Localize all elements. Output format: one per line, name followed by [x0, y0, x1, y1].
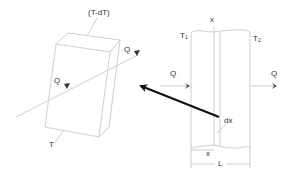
- bottom-label-leader: [55, 130, 64, 143]
- right-temp-label: T2: [253, 35, 261, 43]
- diagram-graphics: [0, 0, 294, 173]
- box-bottom-temp-label: T: [49, 141, 54, 149]
- box-flow-line: [16, 55, 138, 117]
- right-temp-subscript: 2: [258, 37, 261, 43]
- diagram-canvas: (T-dT) T Q Q x T1 T2 Q Q dx x L: [0, 0, 294, 173]
- pointer-arrow: [141, 86, 219, 117]
- dx-label: dx: [224, 117, 232, 125]
- box-outflow-label: Q: [124, 46, 130, 54]
- left-temp-subscript: 1: [185, 34, 188, 40]
- slab-outflow-label: Q: [271, 70, 277, 78]
- box-inflow-label: Q: [54, 77, 60, 85]
- left-temp-label: T1: [180, 32, 188, 40]
- position-x-top-label: x: [210, 16, 214, 24]
- element-box: [45, 33, 120, 137]
- slab-inflow-label: Q: [170, 70, 176, 78]
- thickness-L-label: L: [218, 160, 222, 168]
- dx-leader: [217, 124, 226, 133]
- top-label-leader: [87, 18, 97, 36]
- box-outflow-arrowhead-icon: [134, 50, 140, 56]
- box-top-temp-label: (T-dT): [88, 9, 110, 17]
- position-x-bottom-label: x: [206, 150, 210, 158]
- box-inflow-arrowhead-icon: [64, 83, 70, 89]
- slab: [160, 26, 276, 168]
- slab-top-edge: [191, 30, 250, 33]
- slab-bottom-edge: [191, 145, 250, 148]
- box-front-face: [45, 44, 110, 137]
